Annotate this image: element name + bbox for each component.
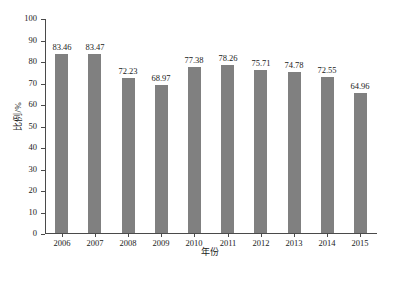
y-axis-tick [41, 84, 45, 85]
bar [354, 93, 367, 233]
bar [122, 78, 135, 233]
y-axis-tick-label: 20 [9, 185, 37, 196]
bar [254, 70, 267, 233]
y-axis-tick [41, 213, 45, 214]
y-axis-tick-label: 10 [9, 207, 37, 218]
x-axis-tick [360, 234, 361, 237]
y-axis-tick [41, 170, 45, 171]
x-axis-tick [161, 234, 162, 237]
bar [321, 77, 334, 233]
x-axis-tick [294, 234, 295, 237]
bar [221, 65, 234, 233]
plot-area: 0102030405060708090100 20062007200820092… [45, 19, 377, 234]
bar [88, 54, 101, 233]
y-axis-tick [41, 19, 45, 20]
x-axis-tick [228, 234, 229, 237]
y-axis-title: 比例/% [11, 87, 24, 147]
x-axis-tick [128, 234, 129, 237]
x-axis-tick [194, 234, 195, 237]
y-axis-tick-label: 80 [9, 56, 37, 67]
y-axis-tick [41, 127, 45, 128]
bar-value-label: 72.55 [307, 65, 347, 75]
bar [155, 85, 168, 233]
bar-value-label: 68.97 [141, 73, 181, 83]
bar [188, 67, 201, 233]
y-axis-tick [41, 105, 45, 106]
y-axis-tick-label: 100 [9, 13, 37, 24]
x-axis-tick [327, 234, 328, 237]
y-axis-tick-label: 0 [9, 228, 37, 239]
y-axis-tick-label: 70 [9, 78, 37, 89]
x-axis-tick [62, 234, 63, 237]
y-axis-tick-label: 90 [9, 35, 37, 46]
y-axis-tick-label: 50 [9, 121, 37, 132]
x-axis-tick [95, 234, 96, 237]
bar [288, 72, 301, 233]
x-axis-title: 年份 [0, 245, 419, 258]
y-axis-tick [41, 148, 45, 149]
y-axis-tick [41, 234, 45, 235]
y-axis-tick-label: 40 [9, 142, 37, 153]
figure-caption [0, 272, 419, 281]
y-axis-tick [41, 191, 45, 192]
x-axis-tick [261, 234, 262, 237]
y-axis-tick-label: 60 [9, 99, 37, 110]
y-axis-tick [41, 62, 45, 63]
bar [55, 54, 68, 233]
bar-value-label: 83.47 [75, 42, 115, 52]
bar-value-label: 64.96 [340, 81, 380, 91]
bar-chart-figure: 比例/% 0102030405060708090100 200620072008… [0, 0, 419, 281]
y-axis-tick-label: 30 [9, 164, 37, 175]
